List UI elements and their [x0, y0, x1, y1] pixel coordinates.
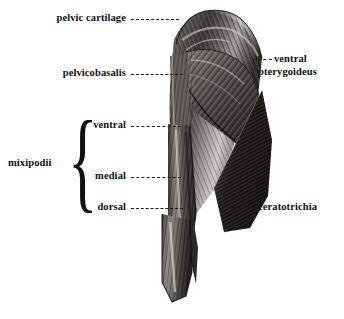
mixipodii-brace: { [68, 104, 98, 216]
pelvicobasalis-muscle [166, 50, 194, 134]
leader-dorsal-mixipodii [131, 208, 183, 209]
anatomical-figure: A pelvic cartilage pelvicobasalis ventra… [0, 0, 344, 319]
label-pelvicobasalis: pelvicobasalis [8, 67, 126, 79]
label-pelvic-cartilage: pelvic cartilage [8, 12, 126, 24]
label-ventral-pterygoideus-line1: ventral [274, 53, 307, 65]
leader-medial-mixipodii [131, 177, 181, 178]
leader-pelvicobasalis [131, 74, 183, 75]
leader-ventral-pterygoideus [252, 59, 272, 60]
label-medial-mixipodii: medial [8, 170, 126, 182]
leader-pelvic-cartilage [131, 19, 179, 20]
label-mixipodii: mixipodii [8, 157, 70, 169]
label-ceratotrichia: ceratotrichia [258, 201, 317, 213]
label-dorsal-mixipodii: dorsal [8, 201, 126, 213]
artist-mark: A [223, 226, 229, 235]
label-ventral-pterygoideus-line2: pterygoideus [258, 66, 317, 78]
leader-ceratotrichia [232, 207, 256, 208]
leader-ventral-mixipodii [131, 126, 181, 127]
label-ventral-mixipodii: ventral [8, 119, 126, 131]
